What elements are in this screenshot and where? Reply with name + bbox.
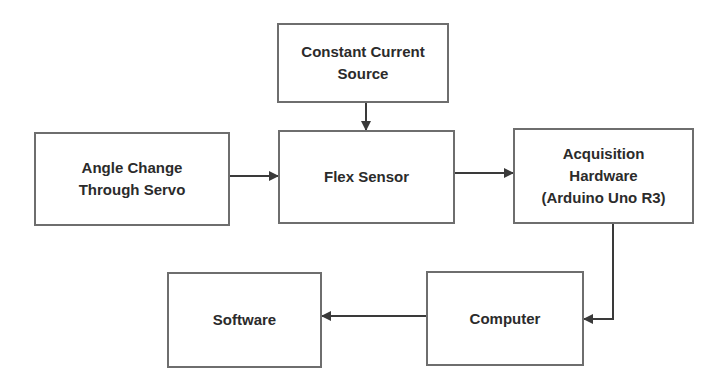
node-label: Acquisition Hardware (Arduino Uno R3) (541, 143, 665, 209)
node-label: Angle Change Through Servo (79, 157, 186, 201)
node-constant-current-source: Constant Current Source (277, 23, 449, 103)
node-label: Flex Sensor (324, 166, 409, 188)
node-computer: Computer (426, 271, 584, 366)
node-label: Software (213, 309, 276, 331)
node-label: Constant Current Source (301, 41, 424, 85)
node-acquisition-hardware: Acquisition Hardware (Arduino Uno R3) (513, 128, 694, 224)
node-software: Software (167, 272, 322, 368)
node-label: Computer (470, 308, 541, 330)
block-diagram: Constant Current Source Angle Change Thr… (0, 0, 721, 388)
arrow-acq-to-computer (584, 223, 613, 319)
node-angle-change-through-servo: Angle Change Through Servo (34, 132, 230, 226)
node-flex-sensor: Flex Sensor (278, 130, 455, 224)
